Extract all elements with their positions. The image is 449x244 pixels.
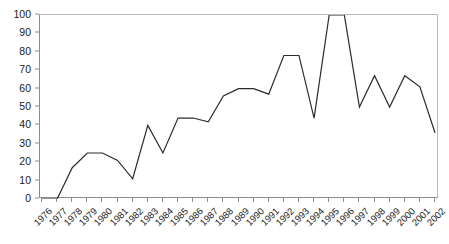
x-tick-mark: [86, 198, 87, 202]
x-tick-mark: [419, 198, 420, 202]
x-tick-mark: [41, 198, 42, 202]
x-tick-label: 1997: [322, 206, 371, 244]
x-tick-mark: [207, 198, 208, 202]
x-axis-ticks: [39, 198, 438, 203]
y-tick-label: 50: [19, 101, 31, 112]
plot-area: [39, 14, 438, 198]
y-tick-label: 40: [19, 119, 31, 130]
x-tick-mark: [268, 198, 269, 202]
x-tick-mark: [343, 198, 344, 202]
x-tick-label: 1978: [35, 206, 84, 244]
x-tick-label: 1989: [201, 206, 250, 244]
x-tick-mark: [177, 198, 178, 202]
x-tick-label: 2002: [398, 206, 447, 244]
x-tick-mark: [298, 198, 299, 202]
line-chart: 0102030405060708090100 19761977197819791…: [0, 0, 449, 244]
x-tick-mark: [404, 198, 405, 202]
x-tick-label: 1979: [50, 206, 99, 244]
x-tick-label: 1994: [277, 206, 326, 244]
x-tick-label: 1982: [95, 206, 144, 244]
y-tick-label: 90: [19, 27, 31, 38]
x-tick-label: 1985: [141, 206, 190, 244]
x-tick-mark: [132, 198, 133, 202]
x-tick-label: 1990: [216, 206, 265, 244]
x-tick-label: 1981: [80, 206, 129, 244]
y-tick-label: 10: [19, 174, 31, 185]
x-tick-label: 1980: [65, 206, 114, 244]
y-tick-label: 100: [13, 9, 31, 20]
x-tick-mark: [374, 198, 375, 202]
x-tick-mark: [434, 198, 435, 202]
x-tick-label: 1999: [352, 206, 401, 244]
x-tick-label: 2001: [382, 206, 431, 244]
x-tick-mark: [101, 198, 102, 202]
x-tick-label: 1996: [307, 206, 356, 244]
y-tick-label: 60: [19, 82, 31, 93]
x-tick-mark: [313, 198, 314, 202]
x-tick-label: 1988: [186, 206, 235, 244]
x-tick-mark: [71, 198, 72, 202]
x-tick-label: 1992: [246, 206, 295, 244]
x-tick-mark: [238, 198, 239, 202]
y-tick-label: 20: [19, 156, 31, 167]
x-tick-label: 1991: [231, 206, 280, 244]
x-tick-mark: [283, 198, 284, 202]
x-tick-mark: [56, 198, 57, 202]
x-tick-label: 1993: [262, 206, 311, 244]
y-axis: 0102030405060708090100: [0, 0, 39, 212]
x-tick-mark: [253, 198, 254, 202]
x-tick-label: 2000: [367, 206, 416, 244]
x-tick-label: 1987: [171, 206, 220, 244]
x-tick-mark: [192, 198, 193, 202]
x-tick-mark: [117, 198, 118, 202]
x-tick-label: 1986: [156, 206, 205, 244]
y-tick-label: 70: [19, 64, 31, 75]
x-tick-mark: [358, 198, 359, 202]
data-series-line: [40, 15, 439, 199]
x-tick-mark: [389, 198, 390, 202]
x-tick-mark: [162, 198, 163, 202]
x-tick-mark: [147, 198, 148, 202]
x-tick-mark: [222, 198, 223, 202]
x-tick-label: 1998: [337, 206, 386, 244]
x-tick-label: 1995: [292, 206, 341, 244]
x-tick-label: 1983: [110, 206, 159, 244]
x-tick-label: 1984: [125, 206, 174, 244]
y-tick-label: 80: [19, 46, 31, 57]
y-tick-label: 0: [25, 193, 31, 204]
y-tick-label: 30: [19, 138, 31, 149]
x-tick-mark: [328, 198, 329, 202]
